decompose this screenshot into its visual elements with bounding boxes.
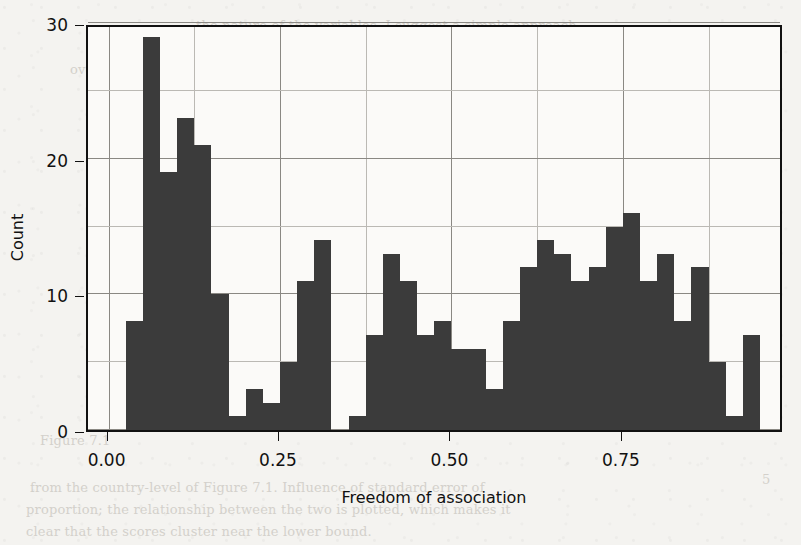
x-tick-label: 0.00 — [88, 450, 126, 470]
y-tick-mark — [75, 432, 84, 433]
histogram-bar — [314, 240, 331, 430]
histogram-bar — [726, 416, 743, 430]
x-tick-mark — [449, 432, 450, 441]
histogram-bar — [280, 362, 297, 430]
x-tick-mark — [278, 432, 279, 441]
histogram-bar — [520, 267, 537, 430]
histogram-bar — [417, 335, 434, 430]
y-tick-mark — [75, 25, 84, 26]
histogram-bar — [743, 335, 760, 430]
histogram-bar — [297, 281, 314, 430]
x-tick-label: 0.25 — [259, 450, 297, 470]
histogram-bar — [657, 254, 674, 430]
histogram-bar — [486, 389, 503, 430]
histogram-bar — [194, 145, 211, 430]
y-tick-mark — [75, 161, 84, 162]
histogram-figure: 0.000.250.500.75 0102030 Freedom of asso… — [0, 0, 801, 545]
histogram-bar — [709, 362, 726, 430]
histogram-bar — [366, 335, 383, 430]
histogram-bar — [589, 267, 606, 430]
histogram-bar — [400, 281, 417, 430]
x-tick-mark — [621, 432, 622, 441]
x-tick-label: 0.50 — [430, 450, 468, 470]
histogram-bar — [126, 321, 143, 430]
histogram-bar — [263, 403, 280, 430]
plot-area — [86, 25, 782, 432]
x-axis-label: Freedom of association — [86, 488, 782, 507]
histogram-bar — [451, 349, 468, 430]
histogram-bar — [349, 416, 366, 430]
histogram-bar — [143, 37, 160, 430]
histogram-bar — [537, 240, 554, 430]
histogram-bar — [160, 172, 177, 430]
y-tick-label: 10 — [16, 286, 68, 306]
y-tick-label: 20 — [16, 151, 68, 171]
histogram-bar — [434, 321, 451, 430]
histogram-bar — [177, 118, 194, 430]
histogram-bar — [674, 321, 691, 430]
y-tick-mark — [75, 296, 84, 297]
histogram-bar — [246, 389, 263, 430]
histogram-bar — [503, 321, 520, 430]
x-tick-mark — [107, 432, 108, 441]
gridline-horizontal — [88, 22, 780, 23]
histogram-bar — [229, 416, 246, 430]
histogram-bar — [211, 294, 228, 430]
histogram-bars — [88, 27, 780, 430]
histogram-bar — [640, 281, 657, 430]
histogram-bar — [691, 267, 708, 430]
x-tick-label: 0.75 — [602, 450, 640, 470]
histogram-bar — [606, 227, 623, 431]
histogram-bar — [554, 254, 571, 430]
y-tick-label: 0 — [16, 422, 68, 442]
histogram-bar — [623, 213, 640, 430]
histogram-bar — [469, 349, 486, 430]
histogram-bar — [383, 254, 400, 430]
y-axis-label: Count — [8, 214, 27, 262]
histogram-bar — [571, 281, 588, 430]
y-tick-label: 30 — [16, 15, 68, 35]
